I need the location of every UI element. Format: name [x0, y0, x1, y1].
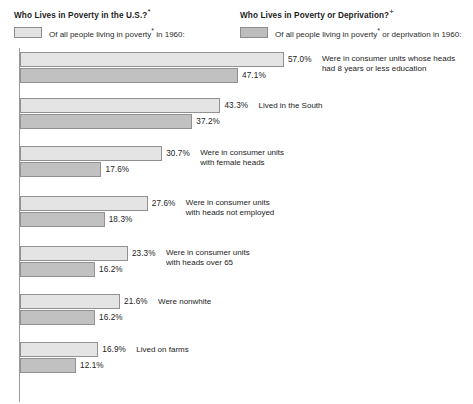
bar-deprivation[interactable] — [20, 310, 95, 325]
bar-group-label: Lived on farms — [136, 345, 188, 355]
bar-deprivation[interactable] — [20, 358, 76, 373]
bar-group: 57.0%47.1%Were in consumer units whose h… — [0, 52, 473, 83]
bar-value-label: 23.3% — [132, 246, 156, 261]
bar-poverty[interactable] — [20, 52, 284, 67]
legend: Who Lives in Poverty in the U.S.?* Of al… — [0, 0, 473, 46]
legend-title-poverty-text: Who Lives in Poverty in the U.S.? — [14, 11, 147, 20]
bar-value-label: 18.3% — [109, 212, 133, 227]
bar-value-label: 21.6% — [124, 294, 148, 309]
legend-entry-deprivation: Of all people living in poverty* or depr… — [240, 26, 461, 40]
bar-value-label: 16.9% — [102, 342, 126, 357]
bar-group-label: Lived in the South — [258, 101, 322, 111]
bar-value-label: 16.2% — [99, 310, 123, 325]
bar-group: 43.3%37.2%Lived in the South — [0, 98, 473, 129]
bar-deprivation[interactable] — [20, 162, 101, 177]
bar-group: 21.6%16.2%Were nonwhite — [0, 294, 473, 325]
legend-title-poverty: Who Lives in Poverty in the U.S.?* — [14, 0, 185, 21]
bar-value-label: 30.7% — [166, 146, 190, 161]
legend-group-poverty: Who Lives in Poverty in the U.S.?* Of al… — [14, 0, 185, 39]
bar-deprivation[interactable] — [20, 114, 192, 129]
bar-poverty[interactable] — [20, 196, 148, 211]
bar-value-label: 57.0% — [288, 52, 312, 67]
bar-value-label: 27.6% — [152, 196, 176, 211]
bar-value-label: 12.1% — [80, 358, 104, 373]
footnote-symbol-plus: + — [389, 7, 394, 16]
bar-value-label: 16.2% — [99, 262, 123, 277]
poverty-bar-chart-page: { "legend": { "left": { "title": "Who Li… — [0, 0, 473, 404]
bar-group: 30.7%17.6%Were in consumer units with fe… — [0, 146, 473, 177]
legend-label-deprivation-pre: Of all people living in poverty — [275, 29, 377, 38]
bar-group-label: Were in consumer units with female heads — [200, 148, 284, 167]
bar-value-label: 37.2% — [196, 114, 220, 129]
bar-group: 23.3%16.2%Were in consumer units with he… — [0, 246, 473, 277]
bar-group: 16.9%12.1%Lived on farms — [0, 342, 473, 373]
legend-title-deprivation: Who Lives in Poverty or Deprivation?+ — [240, 0, 461, 21]
bar-poverty[interactable] — [20, 246, 128, 261]
bar-group-label: Were in consumer units with heads over 6… — [166, 248, 250, 267]
bar-deprivation[interactable] — [20, 68, 238, 83]
bar-deprivation[interactable] — [20, 262, 95, 277]
bar-poverty[interactable] — [20, 146, 162, 161]
legend-label-poverty-post: in 1960: — [154, 29, 185, 38]
bar-group: 27.6%18.3%Were in consumer units with he… — [0, 196, 473, 227]
bar-deprivation[interactable] — [20, 212, 105, 227]
legend-label-deprivation-post: or deprivation in 1960: — [380, 29, 461, 38]
bar-poverty[interactable] — [20, 294, 120, 309]
legend-title-deprivation-text: Who Lives in Poverty or Deprivation? — [240, 11, 389, 20]
bar-group-label: Were in consumer units with heads not em… — [186, 198, 275, 217]
legend-swatch-poverty-icon — [14, 27, 42, 38]
legend-label-poverty: Of all people living in poverty* in 1960… — [49, 26, 185, 40]
legend-group-deprivation: Who Lives in Poverty or Deprivation?+ Of… — [240, 0, 461, 39]
chart-plot-area: 57.0%47.1%Were in consumer units whose h… — [0, 46, 473, 404]
bar-group-label: Were in consumer units whose heads had 8… — [322, 54, 455, 73]
legend-label-poverty-pre: Of all people living in poverty — [49, 29, 151, 38]
bar-value-label: 47.1% — [242, 68, 266, 83]
bar-poverty[interactable] — [20, 98, 220, 113]
legend-entry-poverty: Of all people living in poverty* in 1960… — [14, 26, 185, 40]
legend-label-deprivation: Of all people living in poverty* or depr… — [275, 26, 461, 40]
bar-poverty[interactable] — [20, 342, 98, 357]
footnote-symbol-asterisk: * — [147, 7, 150, 16]
bar-value-label: 43.3% — [224, 98, 248, 113]
bar-group-label: Were nonwhite — [158, 297, 211, 307]
bar-value-label: 17.6% — [105, 162, 129, 177]
legend-swatch-deprivation-icon — [240, 27, 268, 38]
